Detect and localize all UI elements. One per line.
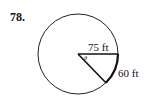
arc-highlight xyxy=(106,54,118,83)
radius-label: 75 ft xyxy=(88,41,108,53)
circle-diagram: 75 ft 60 ft θ xyxy=(0,0,145,104)
arc-label: 60 ft xyxy=(118,67,138,79)
angle-theta-label: θ xyxy=(84,55,87,61)
radius-diagonal xyxy=(78,54,106,83)
